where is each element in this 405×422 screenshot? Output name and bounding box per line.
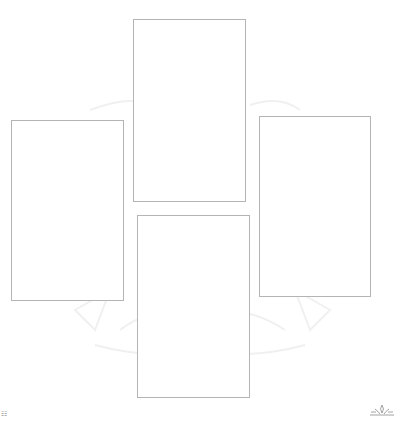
card-top[interactable] <box>133 19 246 202</box>
card-left[interactable] <box>11 120 124 301</box>
corner-mark: ☷ <box>1 411 7 418</box>
lotus-logo-icon <box>367 403 397 417</box>
card-right[interactable] <box>259 116 371 297</box>
card-bottom[interactable] <box>137 215 250 398</box>
